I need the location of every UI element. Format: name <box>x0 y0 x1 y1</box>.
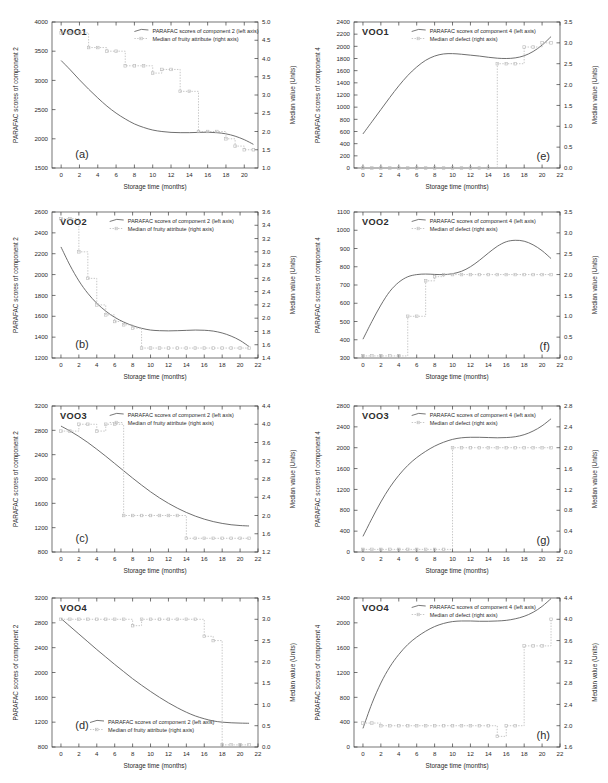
y-tick-label: 1400 <box>336 79 350 86</box>
y2-tick-label: 2.6 <box>262 275 271 282</box>
y-tick-label: 1200 <box>336 486 350 493</box>
y2-tick-label: 1.2 <box>262 548 271 555</box>
y2-tick-label: 0.4 <box>564 527 573 534</box>
y2-tick-label: 4.0 <box>262 420 271 427</box>
legend-label: Median of fruity attribute (right axis) <box>108 727 194 733</box>
x-tick-label: 0 <box>361 361 365 368</box>
x-tick-label: 14 <box>485 171 492 178</box>
legend-label: PARAFAC scores of component 2 (left axis… <box>128 412 234 418</box>
legend-label: Median of defect (right axis) <box>430 226 498 232</box>
y2-tick-label: 1.6 <box>564 743 573 750</box>
y-tick-label: 1600 <box>34 312 48 319</box>
y-tick-label: 1600 <box>336 465 350 472</box>
x-tick-label: 10 <box>147 555 154 562</box>
y-tick-label: 2800 <box>34 427 48 434</box>
plot-frame <box>52 22 258 168</box>
x-tick-label: 0 <box>361 750 365 757</box>
x-tick-label: 20 <box>241 171 248 178</box>
x-tick-label: 16 <box>503 555 510 562</box>
y2-tick-label: 1.5 <box>564 102 573 109</box>
x-tick-label: 6 <box>113 361 117 368</box>
x-tick-label: 16 <box>204 171 211 178</box>
x-tick-label: 18 <box>219 555 226 562</box>
y2-tick-label: 2.8 <box>564 402 573 409</box>
plot-frame <box>354 22 560 168</box>
x-tick-label: 4 <box>397 555 401 562</box>
x-tick-label: 4 <box>95 750 99 757</box>
x-tick-label: 20 <box>539 750 546 757</box>
x-axis-label: Storage time (months) <box>425 373 488 381</box>
y-tick-label: 3000 <box>34 77 48 84</box>
chart-panel-d: 0246810121416182022800120016002000240028… <box>6 584 302 783</box>
y2-tick-label: 1.0 <box>564 312 573 319</box>
y-axis-label: PARAFAC scores of component 2 <box>12 47 20 143</box>
x-tick-label: 22 <box>557 171 564 178</box>
y2-tick-label: 1.5 <box>564 292 573 299</box>
x-tick-label: 18 <box>521 361 528 368</box>
x-tick-label: 2 <box>379 361 383 368</box>
sample-label: VOO4 <box>362 603 390 613</box>
y-tick-label: 400 <box>340 527 351 534</box>
y2-tick-label: 1.2 <box>564 486 573 493</box>
x-tick-label: 20 <box>539 171 546 178</box>
y-tick-label: 1800 <box>336 55 350 62</box>
y-tick-label: 2400 <box>336 594 350 601</box>
legend-label: Median of defect (right axis) <box>430 612 498 618</box>
x-tick-label: 4 <box>96 171 100 178</box>
y-tick-label: 3200 <box>34 594 48 601</box>
y2-tick-label: 2.8 <box>262 475 271 482</box>
y-tick-label: 2000 <box>336 619 350 626</box>
legend-label: PARAFAC scores of component 2 (left axis… <box>152 28 258 34</box>
x-tick-label: 10 <box>147 750 154 757</box>
x-tick-label: 8 <box>131 361 135 368</box>
y2-tick-label: 4.0 <box>564 615 573 622</box>
x-axis-label: Storage time (months) <box>425 567 488 575</box>
x-tick-label: 14 <box>186 171 193 178</box>
y2-tick-label: 1.6 <box>262 530 271 537</box>
y2-tick-label: 2.4 <box>262 493 271 500</box>
x-tick-label: 8 <box>133 171 137 178</box>
x-tick-label: 12 <box>165 555 172 562</box>
x-tick-label: 20 <box>539 361 546 368</box>
y2-tick-label: 3.2 <box>262 235 271 242</box>
y-tick-label: 1000 <box>336 103 350 110</box>
y-tick-label: 3200 <box>34 402 48 409</box>
figure-footer <box>0 767 608 783</box>
x-tick-label: 10 <box>449 171 456 178</box>
x-tick-label: 6 <box>113 750 117 757</box>
y-tick-label: 2000 <box>34 669 48 676</box>
x-tick-label: 18 <box>219 750 226 757</box>
plot-frame <box>354 406 560 552</box>
x-tick-label: 10 <box>149 171 156 178</box>
y2-tick-label: 2.0 <box>262 512 271 519</box>
x-tick-label: 10 <box>147 361 154 368</box>
y-tick-label: 1600 <box>34 694 48 701</box>
y-tick-label: 2200 <box>34 250 48 257</box>
y2-tick-label: 0.5 <box>564 333 573 340</box>
y-tick-label: 800 <box>340 506 351 513</box>
y2-tick-label: 3.6 <box>262 208 271 215</box>
y2-axis-label: Median value (Units) <box>289 66 297 125</box>
y2-tick-label: 2.5 <box>564 250 573 257</box>
y-axis-label: PARAFAC scores of component 2 <box>12 624 20 720</box>
y-axis-label: PARAFAC scores of component 4 <box>314 624 322 720</box>
y2-axis-label: Median value (Units) <box>591 643 599 702</box>
x-tick-label: 4 <box>397 171 401 178</box>
x-tick-label: 2 <box>78 171 82 178</box>
y2-tick-label: 2.4 <box>262 288 271 295</box>
x-tick-label: 6 <box>415 750 419 757</box>
x-tick-label: 0 <box>361 555 365 562</box>
y2-axis-label: Median value (Units) <box>591 450 599 509</box>
x-tick-label: 4 <box>397 361 401 368</box>
x-tick-label: 20 <box>237 361 244 368</box>
y-tick-label: 4000 <box>34 18 48 25</box>
x-tick-label: 16 <box>503 750 510 757</box>
x-tick-label: 8 <box>433 555 437 562</box>
x-tick-label: 22 <box>557 750 564 757</box>
y2-tick-label: 3.0 <box>564 229 573 236</box>
y-tick-label: 2400 <box>34 644 48 651</box>
chart-panel-a: 0246810121416182015002000250030003500400… <box>6 8 302 204</box>
sample-label: VOO4 <box>60 603 88 613</box>
y2-tick-label: 0.0 <box>262 743 271 750</box>
y-tick-label: 1200 <box>336 91 350 98</box>
